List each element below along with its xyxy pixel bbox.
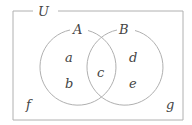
set-b-label: B — [118, 22, 129, 37]
region-b: b — [65, 76, 73, 91]
region-a: a — [65, 50, 73, 65]
region-g: g — [166, 97, 174, 112]
region-e: e — [129, 76, 137, 91]
region-d: d — [129, 50, 137, 65]
region-c: c — [97, 65, 105, 80]
set-a-circle — [40, 30, 116, 105]
venn-diagram: U A B a b c d e f g — [0, 0, 192, 125]
universe-label: U — [38, 4, 50, 19]
region-f: f — [25, 97, 33, 112]
set-a-label: A — [72, 22, 82, 37]
